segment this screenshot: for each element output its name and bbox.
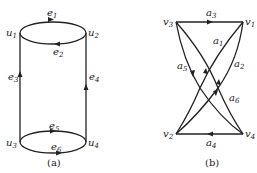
caption-b: (b) — [205, 157, 219, 168]
edge-label-e2: e2 — [53, 46, 64, 59]
arrow-a1-icon — [203, 68, 208, 74]
vertex-u2: u2 — [88, 27, 99, 40]
vertex-u3: u3 — [6, 137, 17, 150]
edge-label-e6: e6 — [51, 141, 62, 154]
vertex-v1: v1 — [245, 16, 255, 29]
edge-label-a6: a6 — [229, 92, 240, 105]
edge-e1-e2-loop — [20, 22, 86, 44]
edge-label-e4: e4 — [89, 71, 99, 84]
figure-b: v3 v1 v2 v4 a3 a1 a2 a5 a6 a4 (b) — [163, 7, 255, 168]
vertex-u4: u4 — [88, 137, 99, 150]
arrow-a2-icon — [216, 79, 221, 85]
edge-label-a4: a4 — [206, 137, 216, 150]
caption-a: (a) — [47, 157, 61, 168]
arrow-a3-icon — [207, 20, 213, 25]
edge-label-a2: a2 — [234, 58, 245, 71]
figure-a: u1 u2 u3 u4 e1 e2 e3 e4 e5 e6 (a) — [6, 7, 99, 168]
edge-label-a3: a3 — [206, 7, 217, 20]
graph-figure: u1 u2 u3 u4 e1 e2 e3 e4 e5 e6 (a) — [0, 0, 257, 173]
arrow-a4-icon — [207, 132, 213, 137]
edge-label-a5: a5 — [177, 60, 188, 73]
arrow-e4-icon — [84, 84, 89, 90]
edge-label-e3: e3 — [8, 71, 19, 84]
vertex-v3: v3 — [163, 16, 174, 29]
vertex-u1: u1 — [6, 27, 17, 40]
vertex-v2: v2 — [163, 128, 174, 141]
arrow-a5-icon — [190, 70, 195, 77]
edge-label-a1: a1 — [213, 35, 223, 48]
vertex-v4: v4 — [245, 128, 255, 141]
